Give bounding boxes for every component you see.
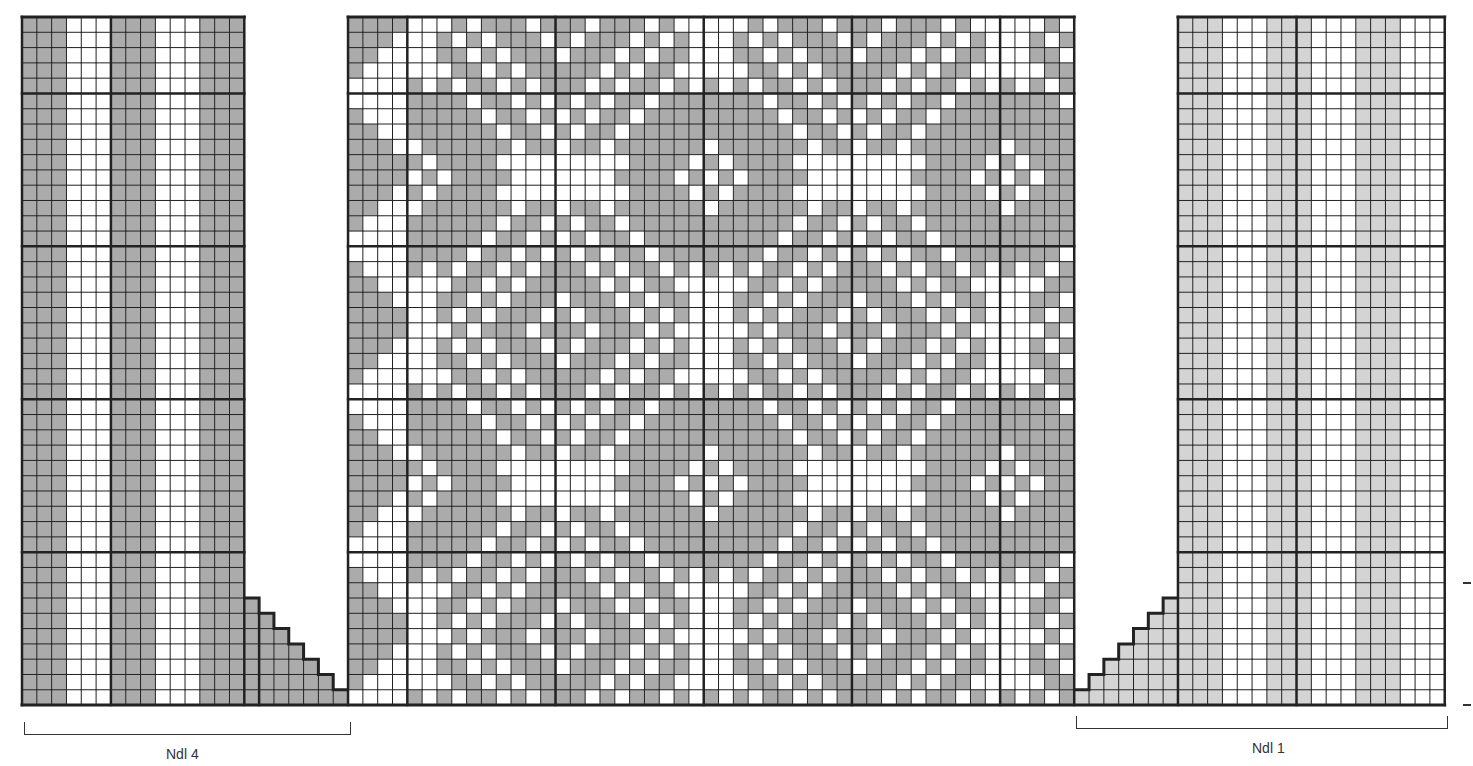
needle-4-label: Ndl 4 (166, 746, 199, 762)
needle-1-label: Ndl 1 (1252, 740, 1285, 756)
needle-4-bracket (24, 722, 351, 735)
row-marker-lower (1463, 704, 1471, 706)
needle-1-bracket (1076, 716, 1448, 729)
row-marker-upper (1463, 582, 1471, 584)
knitting-chart (0, 0, 1473, 766)
